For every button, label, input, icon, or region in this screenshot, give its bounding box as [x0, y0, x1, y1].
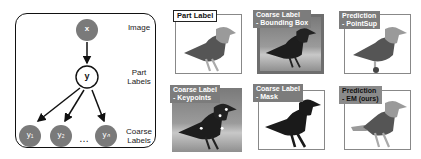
row-label-coarse: Coarse Labels [122, 127, 156, 145]
panel-label: Prediction - PointSup [339, 11, 380, 29]
node-yn-label: yₙ [98, 130, 114, 139]
panel-coarse-bbox: Coarse Label - Bounding Box [257, 14, 324, 74]
panel-label: Coarse Label - Mask [253, 84, 303, 102]
node-y1-label: y₁ [22, 130, 38, 139]
node-x-label: x [82, 24, 92, 33]
panel-label: Part Label [173, 10, 217, 22]
panel-part-label: Part Label [175, 14, 242, 74]
node-y-label: y [82, 71, 92, 81]
edge-y-to-y2 [65, 90, 84, 121]
ellipsis: … [76, 133, 92, 144]
row-label-image: Image [122, 23, 156, 32]
panel-coarse-keypoints: Coarse Label - Keypoints [172, 88, 242, 152]
panel-prediction-pointsup: Prediction - PointSup [344, 14, 411, 74]
row-label-part: Part Labels [122, 68, 156, 86]
panel-label: Prediction - EM (ours) [339, 86, 382, 104]
panel-label: Coarse Label - Keypoints [170, 85, 220, 103]
node-y2-label: y₂ [53, 130, 69, 139]
panel-coarse-mask: Coarse Label - Mask [258, 90, 325, 150]
panel-label: Coarse Label - Bounding Box [253, 10, 311, 28]
panel-prediction-em: Prediction - EM (ours) [344, 90, 411, 150]
edge-y-to-y1 [38, 88, 80, 121]
segmented-bird-image [176, 15, 243, 75]
edge-y-to-yn [92, 90, 104, 121]
